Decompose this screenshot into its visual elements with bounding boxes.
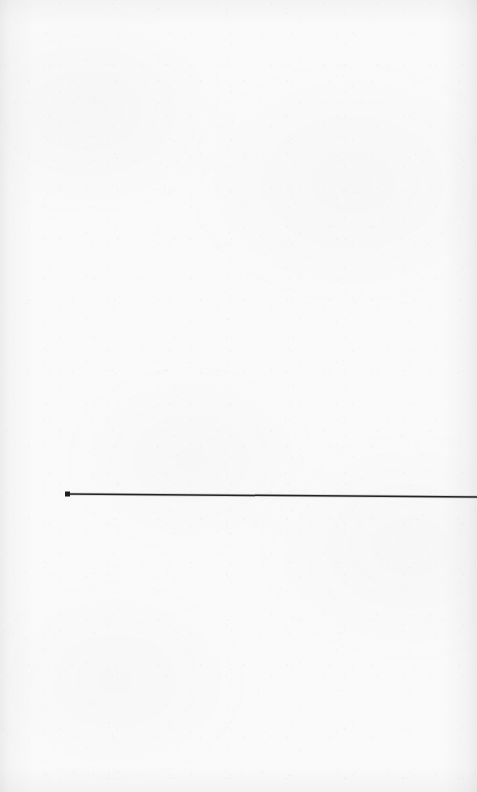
artwork-layer xyxy=(0,0,477,792)
artwork-canvas xyxy=(0,0,477,792)
left-endpoint-marker-icon xyxy=(65,492,70,497)
scanned-page xyxy=(0,0,477,792)
